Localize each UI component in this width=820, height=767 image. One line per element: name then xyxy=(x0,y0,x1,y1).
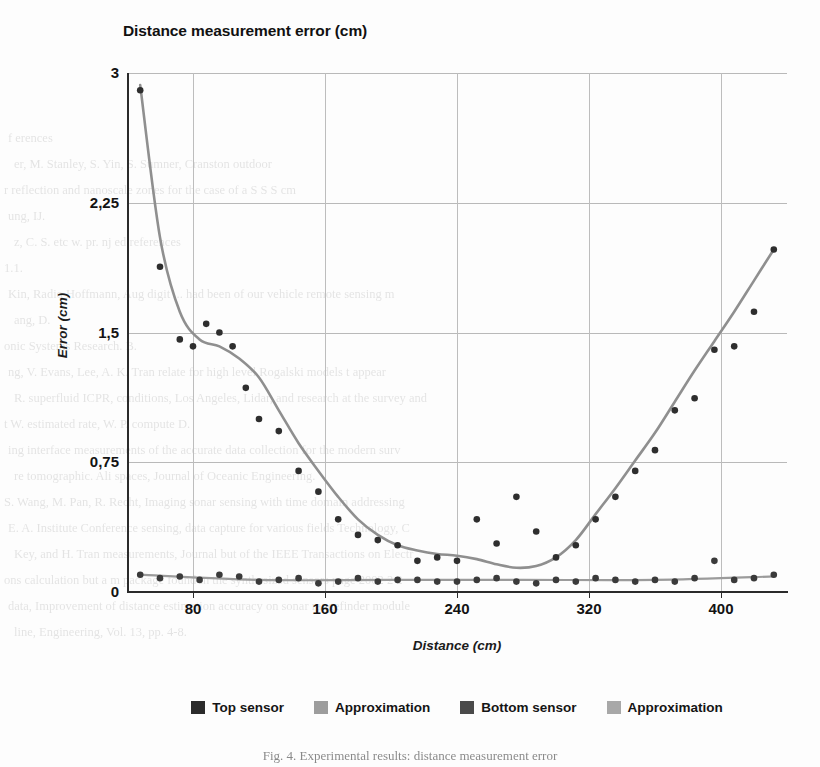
legend-item[interactable]: Approximation xyxy=(314,700,430,715)
legend-item[interactable]: Approximation xyxy=(607,700,723,715)
data-point xyxy=(751,575,758,582)
data-point xyxy=(731,577,738,584)
data-point xyxy=(315,488,322,495)
data-point xyxy=(513,494,520,501)
data-point xyxy=(256,578,263,585)
data-point xyxy=(335,516,342,523)
data-point xyxy=(731,343,738,350)
data-point xyxy=(335,578,342,585)
legend-swatch-icon xyxy=(314,701,328,714)
data-point xyxy=(513,578,520,585)
approximation-curve xyxy=(140,85,774,568)
data-point xyxy=(711,558,718,565)
x-axis-tick-label: 80 xyxy=(153,600,233,617)
data-point xyxy=(771,571,778,578)
figure-caption: Fig. 4. Experimental results: distance m… xyxy=(0,748,820,764)
distance-measurement-error-chart: Distance measurement error (cm) 00,751,5… xyxy=(0,0,820,767)
data-point xyxy=(256,416,263,423)
y-axis-tick-label: 2,25 xyxy=(59,194,119,211)
data-point xyxy=(592,575,599,582)
data-point xyxy=(177,573,184,580)
plot-area xyxy=(127,73,787,592)
data-point xyxy=(355,575,362,582)
x-axis-tick-mark xyxy=(193,592,194,598)
data-point xyxy=(375,537,382,544)
chart-title: Distance measurement error (cm) xyxy=(123,22,367,40)
data-point xyxy=(190,343,197,350)
x-axis-tick-label: 400 xyxy=(681,600,761,617)
legend-swatch-icon xyxy=(460,701,474,714)
data-point xyxy=(295,575,302,582)
data-point xyxy=(553,577,560,584)
data-point xyxy=(493,575,500,582)
data-point xyxy=(691,395,698,402)
data-point xyxy=(771,246,778,253)
data-point xyxy=(474,577,481,584)
x-axis-tick-label: 160 xyxy=(285,600,365,617)
x-axis-tick-label: 320 xyxy=(549,600,629,617)
data-point xyxy=(533,528,540,535)
data-point xyxy=(414,577,421,584)
data-point xyxy=(276,428,283,435)
data-point xyxy=(243,385,250,392)
scatter-series xyxy=(137,87,777,564)
x-axis-tick-mark xyxy=(325,592,326,598)
data-point xyxy=(553,554,560,561)
data-point xyxy=(474,516,481,523)
legend-item[interactable]: Bottom sensor xyxy=(460,700,576,715)
data-point xyxy=(434,554,441,561)
data-point xyxy=(216,329,223,336)
x-axis-tick-mark xyxy=(721,592,722,598)
data-point xyxy=(177,336,184,343)
data-point xyxy=(632,578,639,585)
data-point xyxy=(454,558,461,565)
data-point xyxy=(691,575,698,582)
legend-swatch-icon xyxy=(191,701,205,714)
data-point xyxy=(276,577,283,584)
data-point xyxy=(295,468,302,475)
x-axis-tick-label: 240 xyxy=(417,600,497,617)
y-axis-tick-label: 0,75 xyxy=(59,453,119,470)
data-point xyxy=(229,343,236,350)
data-point xyxy=(157,263,164,270)
y-axis-tick-label: 0 xyxy=(59,583,119,600)
data-point xyxy=(612,494,619,501)
data-point xyxy=(592,516,599,523)
chart-data-layer xyxy=(127,73,787,592)
data-point xyxy=(711,347,718,354)
legend-item[interactable]: Top sensor xyxy=(191,700,284,715)
data-point xyxy=(632,468,639,475)
legend-label: Approximation xyxy=(628,700,723,715)
data-point xyxy=(414,558,421,565)
y-axis-label: Error (cm) xyxy=(55,256,70,396)
x-axis-tick-mark xyxy=(457,592,458,598)
x-axis-tick-mark xyxy=(589,592,590,598)
legend-label: Approximation xyxy=(335,700,430,715)
data-point xyxy=(394,542,401,549)
legend-swatch-icon xyxy=(607,701,621,714)
data-point xyxy=(493,540,500,547)
data-point xyxy=(573,578,580,585)
data-point xyxy=(394,577,401,584)
data-point xyxy=(672,407,679,414)
data-point xyxy=(157,575,164,582)
legend-label: Bottom sensor xyxy=(481,700,576,715)
data-point xyxy=(652,577,659,584)
data-point xyxy=(454,578,461,585)
data-point xyxy=(672,578,679,585)
data-point xyxy=(533,580,540,587)
data-point xyxy=(236,573,243,580)
data-point xyxy=(137,571,144,578)
x-axis-label: Distance (cm) xyxy=(127,638,787,653)
data-point xyxy=(355,532,362,539)
data-point xyxy=(612,577,619,584)
data-point xyxy=(216,571,223,578)
data-point xyxy=(137,87,144,94)
data-point xyxy=(652,447,659,454)
y-axis-line xyxy=(127,73,129,593)
chart-legend: Top sensorApproximationBottom sensorAppr… xyxy=(127,700,787,715)
data-point xyxy=(315,580,322,587)
data-point xyxy=(573,542,580,549)
data-point xyxy=(196,577,203,584)
y-axis-tick-label: 3 xyxy=(59,64,119,81)
